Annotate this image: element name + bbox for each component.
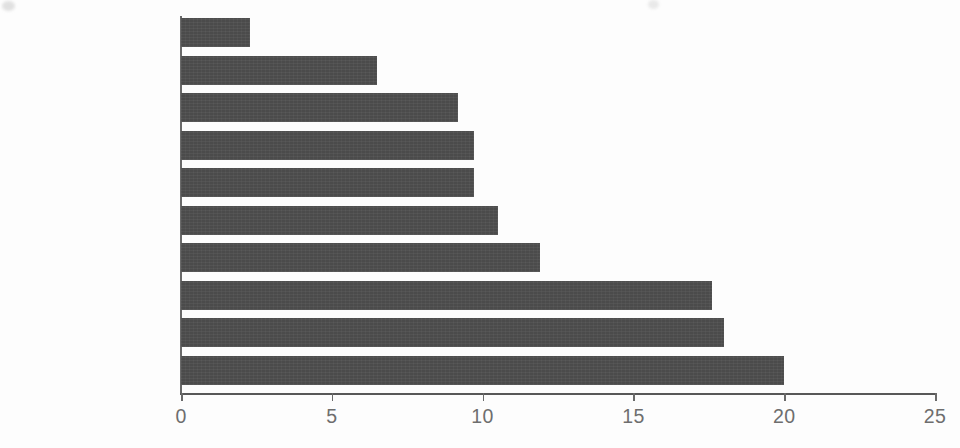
bar xyxy=(181,93,458,122)
bar-row: Celeriac xyxy=(181,91,935,129)
x-axis-tick-label: 20 xyxy=(749,405,819,428)
bar xyxy=(181,356,784,385)
bar-row: Turnip xyxy=(181,241,935,279)
x-axis-tick-label: 10 xyxy=(448,405,518,428)
bar-row: Pumpkin xyxy=(181,54,935,92)
x-axis-tick-label: 25 xyxy=(900,405,960,428)
scan-artifact-icon xyxy=(648,0,659,9)
x-axis-line xyxy=(180,393,937,395)
bar-row: Parsnip xyxy=(181,316,935,354)
bar xyxy=(181,56,377,85)
bar-row: Sweet potato xyxy=(181,354,935,392)
bar xyxy=(181,131,474,160)
bar xyxy=(181,168,474,197)
x-axis-tick xyxy=(935,393,937,401)
plot-area: SwedePumpkinCeleriacCarrotBeetrootButter… xyxy=(181,16,935,393)
x-axis-tick-label: 15 xyxy=(598,405,668,428)
x-axis-tick-label: 5 xyxy=(297,405,367,428)
bar-row: Carrot xyxy=(181,129,935,167)
x-axis-tick xyxy=(633,393,635,401)
bar xyxy=(181,281,712,310)
bar-row: Beetroot xyxy=(181,166,935,204)
scan-artifact-icon xyxy=(2,1,15,11)
x-axis-tick xyxy=(332,393,334,401)
bar xyxy=(181,206,498,235)
bar xyxy=(181,318,724,347)
bar-row: Potato xyxy=(181,279,935,317)
x-axis-tick xyxy=(784,393,786,401)
x-axis-tick xyxy=(483,393,485,401)
bar-row: Swede xyxy=(181,16,935,54)
bar xyxy=(181,243,540,272)
bar xyxy=(181,18,250,47)
bar-row: Butternut squash xyxy=(181,204,935,242)
bar-chart-figure: SwedePumpkinCeleriacCarrotBeetrootButter… xyxy=(0,0,960,448)
x-axis-tick-label: 0 xyxy=(146,405,216,428)
x-axis-tick xyxy=(181,393,183,401)
